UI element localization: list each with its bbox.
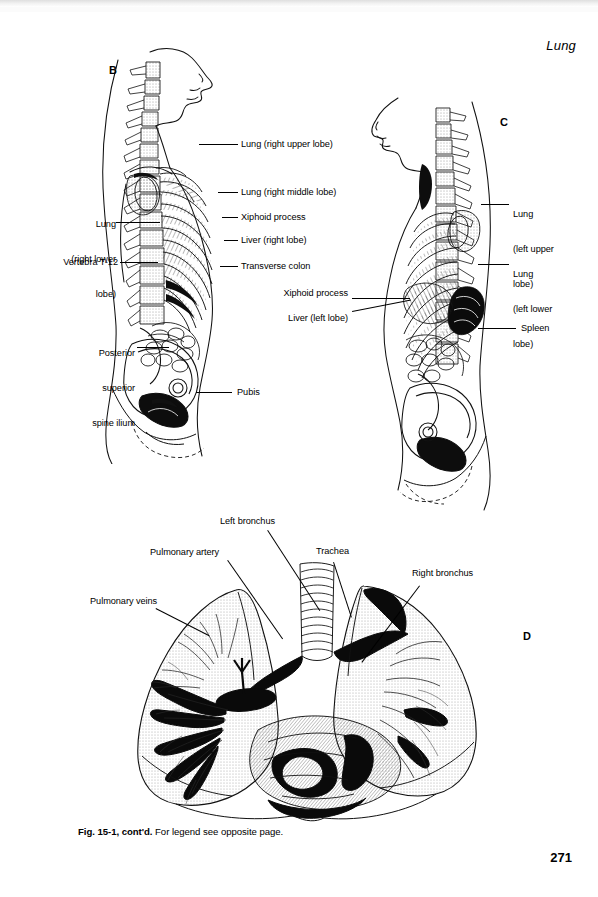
panel-letter-d: D — [523, 630, 531, 642]
leader-pubis — [196, 392, 232, 393]
textbook-page: Lung — [0, 0, 598, 897]
scan-edge-artifact — [0, 0, 598, 7]
scan-edge-artifact-secondary — [0, 7, 598, 12]
label-pulmonary-artery: Pulmonary artery — [150, 547, 219, 559]
label-line: Posterior — [49, 348, 135, 360]
running-head: Lung — [546, 38, 576, 53]
leader-transverse-colon — [220, 266, 238, 267]
label-line: (left lower — [513, 304, 552, 316]
figure-caption-text: For legend see opposite page. — [152, 826, 283, 837]
leader-posterior-superior-spine-ilium — [137, 347, 169, 348]
label-line: lobe) — [513, 339, 552, 351]
label-line: spine ilium — [49, 418, 135, 430]
label-pubis: Pubis — [237, 387, 260, 399]
page-number: 271 — [550, 850, 572, 865]
label-trachea: Trachea — [316, 546, 349, 558]
label-vertebra-t12: Vertebra T-12 — [36, 257, 118, 269]
label-line: Lung — [513, 269, 552, 281]
leader-lung-left-lower-lobe — [478, 264, 509, 265]
label-left-bronchus: Left bronchus — [220, 516, 275, 528]
label-lung-right-upper-lobe: Lung (right upper lobe) — [241, 139, 333, 151]
label-xiphoid-process-c: Xiphoid process — [248, 288, 348, 300]
leader-xiphoid-process-c — [352, 298, 410, 299]
label-liver-right-lobe: Liver (right lobe) — [241, 235, 306, 247]
leader-lung-right-upper-lobe — [199, 144, 238, 145]
leader-liver-right-lobe — [224, 240, 238, 241]
label-line: superior — [49, 383, 135, 395]
leader-vertebra-t12 — [120, 262, 158, 263]
label-spleen: Spleen — [521, 323, 549, 335]
label-pulmonary-veins: Pulmonary veins — [90, 596, 157, 608]
leader-lung-right-lower-lobe — [116, 222, 160, 223]
label-lung-left-lower-lobe: Lung (left lower lobe) — [513, 246, 552, 374]
label-line: Lung — [50, 219, 116, 231]
label-line: lobe) — [50, 289, 116, 301]
label-right-bronchus: Right bronchus — [412, 568, 473, 580]
leader-lung-right-middle-lobe — [218, 192, 238, 193]
label-liver-left-lobe: Liver (left lobe) — [248, 313, 348, 325]
label-xiphoid-process-b: Xiphoid process — [241, 212, 306, 224]
leader-xiphoid-process-b — [222, 217, 238, 218]
figure-number: Fig. 15-1, cont'd. — [78, 826, 152, 837]
figure-caption: Fig. 15-1, cont'd. For legend see opposi… — [78, 826, 283, 837]
label-line: Lung — [513, 209, 554, 221]
leader-spleen — [478, 328, 516, 329]
panel-d-illustration — [118, 560, 498, 835]
panel-letter-b: B — [109, 64, 117, 76]
leader-lung-left-upper-lobe — [481, 204, 509, 205]
panel-letter-c: C — [500, 116, 508, 128]
label-posterior-superior-spine-ilium: Posterior superior spine ilium — [49, 325, 135, 453]
label-lung-right-middle-lobe: Lung (right middle lobe) — [241, 187, 336, 199]
label-transverse-colon: Transverse colon — [241, 261, 310, 273]
